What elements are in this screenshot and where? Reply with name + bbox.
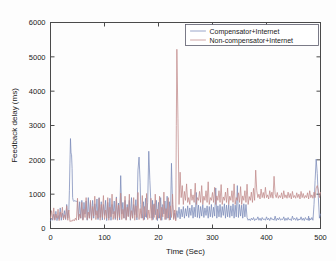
y-tick-label: 4000 (29, 87, 46, 96)
x-tick-label: 0 (48, 233, 52, 242)
x-tick-label: 300 (206, 233, 219, 242)
x-axis-label: Time (Sec) (166, 247, 205, 256)
x-tick-label: 100 (98, 233, 111, 242)
x-tick-label: 400 (260, 233, 273, 242)
chart-figure: 0100020003000400050006000 01002030040050… (0, 0, 336, 261)
y-tick-label: 1000 (29, 190, 46, 199)
y-tick-label: 3000 (29, 121, 46, 130)
y-axis-label: Feedback delay (ms) (10, 88, 19, 163)
chart-svg: 0100020003000400050006000 01002030040050… (0, 0, 336, 261)
y-tick-label: 0 (41, 224, 45, 233)
legend-label-non-compensator: Non-compensator+Internet (210, 37, 294, 45)
x-tick-label: 500 (314, 233, 327, 242)
legend-label-compensator: Compensator+Internet (210, 28, 280, 36)
y-tick-label: 6000 (29, 18, 46, 27)
x-tick-label: 20 (154, 233, 162, 242)
chart-legend: Compensator+Internet Non-compensator+Int… (186, 25, 319, 46)
y-tick-label: 5000 (29, 53, 46, 62)
y-tick-label: 2000 (29, 156, 46, 165)
